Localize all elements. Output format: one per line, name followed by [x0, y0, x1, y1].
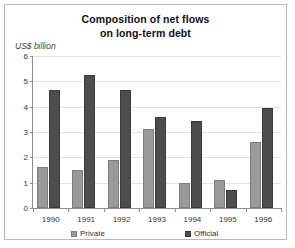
y-tick-label-1: 1	[24, 178, 28, 187]
y-tick-label-3: 3	[24, 128, 28, 137]
y-tick-label-4: 4	[24, 102, 28, 111]
bar-official-1992	[120, 90, 131, 208]
bar-private-1995	[214, 180, 225, 208]
bar-private-1996	[250, 142, 261, 208]
bar-official-1994	[191, 121, 202, 208]
plot-area: 0123456 1990199119921993199419951996	[33, 56, 281, 208]
legend-label-official: Official	[194, 229, 218, 238]
legend-swatch-official-icon	[185, 231, 191, 237]
x-tick-label-1994: 1994	[184, 215, 202, 224]
x-tick-label-1995: 1995	[219, 215, 237, 224]
bar-official-1995	[226, 190, 237, 208]
chart-title-line-1: Composition of net flows	[5, 12, 286, 26]
bar-official-1990	[49, 90, 60, 208]
bar-official-1993	[155, 117, 166, 208]
y-axis-label: US$ billion	[15, 41, 56, 51]
y-tick-label-2: 2	[24, 153, 28, 162]
x-tick-label-1991: 1991	[77, 215, 95, 224]
legend-item-private: Private	[71, 229, 105, 238]
bar-private-1991	[72, 170, 83, 208]
bar-official-1991	[84, 75, 95, 208]
bar-group-1996: 1996	[246, 56, 281, 208]
x-tick-label-1990: 1990	[42, 215, 60, 224]
x-tick-mark-1993	[139, 208, 140, 212]
legend-swatch-private-icon	[71, 231, 77, 237]
x-tick-mark-1992	[104, 208, 105, 212]
y-tick-label-6: 6	[24, 52, 28, 61]
bar-group-1995: 1995	[210, 56, 245, 208]
chart-legend: Private Official	[33, 229, 274, 241]
y-tick-label-5: 5	[24, 77, 28, 86]
legend-label-private: Private	[80, 229, 105, 238]
bar-group-1994: 1994	[175, 56, 210, 208]
bar-private-1993	[143, 129, 154, 208]
bar-group-1993: 1993	[139, 56, 174, 208]
y-tick-label-0: 0	[24, 204, 28, 213]
bar-private-1990	[37, 167, 48, 208]
chart-title-line-2: on long-term debt	[5, 26, 286, 40]
x-tick-mark-1996	[246, 208, 247, 212]
x-tick-mark-1991	[68, 208, 69, 212]
x-tick-mark-1990	[33, 208, 34, 212]
bar-private-1992	[108, 160, 119, 208]
bar-private-1994	[179, 183, 190, 208]
chart-frame: Composition of net flows on long-term de…	[4, 4, 287, 240]
x-tick-label-1996: 1996	[254, 215, 272, 224]
bar-group-1991: 1991	[68, 56, 103, 208]
x-tick-mark-1994	[175, 208, 176, 212]
gridline-0	[33, 208, 281, 209]
x-tick-label-1993: 1993	[148, 215, 166, 224]
x-tick-label-1992: 1992	[113, 215, 131, 224]
legend-item-official: Official	[185, 229, 218, 238]
x-tick-mark-1995	[210, 208, 211, 212]
chart-title: Composition of net flows on long-term de…	[5, 12, 286, 40]
bar-group-1990: 1990	[33, 56, 68, 208]
x-tick-mark-end	[281, 208, 282, 212]
bar-official-1996	[262, 108, 273, 208]
bar-group-1992: 1992	[104, 56, 139, 208]
